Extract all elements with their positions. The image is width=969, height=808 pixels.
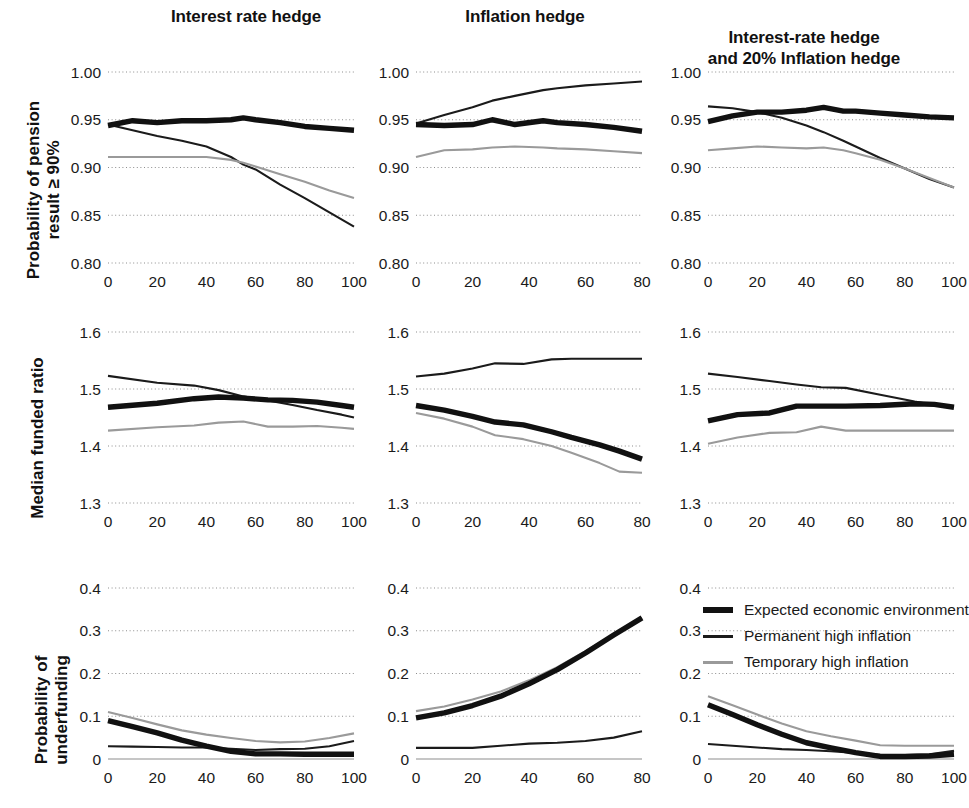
x-tick-label: 0 xyxy=(104,513,113,530)
series-line-permanent-high-inflation xyxy=(416,359,642,377)
panel-r3c2: 00.10.20.30.4020406080 xyxy=(368,578,648,793)
x-tick-label: 20 xyxy=(464,513,482,530)
column-title-2: Inflation hedge xyxy=(380,6,670,27)
y-tick-label: 0.1 xyxy=(79,708,101,725)
series-line-permanent-high-inflation xyxy=(416,82,642,124)
x-tick-label: 80 xyxy=(896,769,914,786)
y-tick-label: 1.3 xyxy=(679,495,701,512)
x-tick-label: 80 xyxy=(296,769,314,786)
y-tick-label: 1.6 xyxy=(679,324,701,341)
chart-svg-r2c3: 1.31.41.51.6020406080100 xyxy=(660,322,960,537)
series-line-temporary-high-inflation xyxy=(416,146,642,157)
y-tick-label: 1.6 xyxy=(79,324,101,341)
panel-r1c2: 0.800.850.900.951.00020406080 xyxy=(368,62,648,297)
x-tick-label: 0 xyxy=(704,769,713,786)
panel-r1c1: 0.800.850.900.951.00020406080100 xyxy=(60,62,360,297)
x-tick-label: 20 xyxy=(149,513,167,530)
x-tick-label: 100 xyxy=(341,769,367,786)
chart-svg-r2c2: 1.31.41.51.6020406080 xyxy=(368,322,648,537)
y-tick-label: 1.00 xyxy=(671,64,702,81)
column-title-1: Interest rate hedge xyxy=(96,6,396,27)
x-tick-label: 100 xyxy=(341,513,367,530)
column-title-2-text: Inflation hedge xyxy=(465,7,584,26)
x-tick-label: 60 xyxy=(247,513,265,530)
x-tick-label: 40 xyxy=(798,273,816,290)
legend-label-expected: Expected economic environment xyxy=(744,601,969,619)
x-tick-label: 40 xyxy=(798,769,816,786)
row-label-probability-pension: Probability of pension result ≥ 90% xyxy=(4,80,64,300)
panel-r2c1: 1.31.41.51.6020406080100 xyxy=(60,322,360,537)
y-tick-label: 0.4 xyxy=(387,580,409,597)
y-tick-label: 0.95 xyxy=(379,111,409,128)
x-tick-label: 60 xyxy=(847,769,865,786)
legend-item-expected: Expected economic environment xyxy=(703,597,969,623)
series-line-expected-economic-environment xyxy=(708,404,954,421)
x-tick-label: 0 xyxy=(104,769,113,786)
panel-r2c2: 1.31.41.51.6020406080 xyxy=(368,322,648,537)
x-tick-label: 80 xyxy=(633,513,651,530)
x-tick-label: 60 xyxy=(577,513,595,530)
series-line-permanent-high-inflation xyxy=(108,125,354,227)
x-tick-label: 60 xyxy=(247,769,265,786)
y-tick-label: 1.3 xyxy=(387,495,409,512)
chart-svg-r3c2: 00.10.20.30.4020406080 xyxy=(368,578,648,793)
chart-svg-r1c2: 0.800.850.900.951.00020406080 xyxy=(368,62,648,297)
x-tick-label: 20 xyxy=(749,513,767,530)
y-tick-label: 0.2 xyxy=(387,665,409,682)
series-line-temporary-high-inflation xyxy=(108,157,354,198)
x-tick-label: 80 xyxy=(296,273,314,290)
y-tick-label: 0.80 xyxy=(71,255,102,272)
x-tick-label: 20 xyxy=(464,273,482,290)
x-tick-label: 60 xyxy=(847,273,865,290)
y-tick-label: 0.4 xyxy=(79,580,101,597)
x-tick-label: 100 xyxy=(941,513,967,530)
x-tick-label: 20 xyxy=(464,769,482,786)
x-tick-label: 40 xyxy=(520,769,538,786)
x-tick-label: 20 xyxy=(149,769,167,786)
x-tick-label: 0 xyxy=(412,769,421,786)
y-tick-label: 1.6 xyxy=(387,324,409,341)
y-tick-label: 1.4 xyxy=(387,438,409,455)
x-tick-label: 40 xyxy=(798,513,816,530)
y-tick-label: 1.5 xyxy=(387,381,409,398)
y-tick-label: 0.1 xyxy=(679,708,701,725)
x-tick-label: 0 xyxy=(104,273,113,290)
x-tick-label: 40 xyxy=(520,513,538,530)
legend-line-expected-icon xyxy=(703,601,733,619)
y-tick-label: 0.90 xyxy=(379,159,410,176)
y-tick-label: 1.3 xyxy=(79,495,101,512)
x-tick-label: 100 xyxy=(941,769,967,786)
series-line-temporary-high-inflation xyxy=(416,413,642,473)
x-tick-label: 20 xyxy=(749,769,767,786)
x-tick-label: 0 xyxy=(704,273,713,290)
chart-svg-r3c1: 00.10.20.30.4020406080100 xyxy=(60,578,360,793)
y-tick-label: 0.90 xyxy=(71,159,102,176)
y-tick-label: 1.4 xyxy=(79,438,101,455)
panel-r2c3: 1.31.41.51.6020406080100 xyxy=(660,322,960,537)
x-tick-label: 0 xyxy=(412,513,421,530)
chart-svg-r2c1: 1.31.41.51.6020406080100 xyxy=(60,322,360,537)
x-tick-label: 80 xyxy=(896,513,914,530)
x-tick-label: 40 xyxy=(198,513,216,530)
y-tick-label: 0.3 xyxy=(387,622,409,639)
x-tick-label: 80 xyxy=(633,273,651,290)
series-line-expected-economic-environment xyxy=(416,618,642,718)
legend: Expected economic environment Permanent … xyxy=(703,597,969,675)
x-tick-label: 60 xyxy=(247,273,265,290)
y-tick-label: 1.00 xyxy=(71,64,102,81)
series-line-permanent-high-inflation xyxy=(416,731,642,748)
series-line-temporary-high-inflation xyxy=(108,421,354,430)
x-tick-label: 100 xyxy=(941,273,967,290)
y-tick-label: 0.4 xyxy=(679,580,701,597)
x-tick-label: 60 xyxy=(577,769,595,786)
x-tick-label: 40 xyxy=(198,769,216,786)
series-line-expected-economic-environment xyxy=(108,397,354,407)
y-tick-label: 1.5 xyxy=(79,381,101,398)
row-label-median-funded-ratio: Median funded ratio xyxy=(8,328,48,548)
y-tick-label: 0.2 xyxy=(679,665,701,682)
series-line-expected-economic-environment xyxy=(708,705,954,757)
y-tick-label: 0 xyxy=(692,751,701,768)
x-tick-label: 20 xyxy=(149,273,167,290)
panel-r1c3: 0.800.850.900.951.00020406080100 xyxy=(660,62,960,297)
